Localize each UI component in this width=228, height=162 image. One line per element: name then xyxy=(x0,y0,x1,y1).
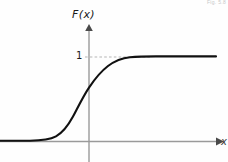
figure-caption: Fig. 5.8 xyxy=(207,0,226,5)
cdf-curve xyxy=(0,56,216,140)
y-axis-label: F(x) xyxy=(72,8,95,21)
cdf-plot xyxy=(0,0,228,162)
x-axis-label: x xyxy=(221,136,227,147)
figure-container: F(x) 1 x Fig. 5.8 xyxy=(0,0,228,162)
y-tick-label-one: 1 xyxy=(76,50,82,61)
y-axis-arrowhead xyxy=(85,24,93,31)
